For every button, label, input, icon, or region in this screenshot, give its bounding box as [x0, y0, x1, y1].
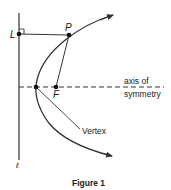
- point-p-dot: [67, 33, 72, 38]
- label-f: F: [53, 89, 60, 100]
- figure-caption: Figure 1: [72, 178, 105, 188]
- segment-lp: [19, 34, 69, 35]
- label-vertex: Vertex: [82, 126, 107, 136]
- point-l-dot: [17, 32, 22, 37]
- parabola-upper-arrow: [100, 15, 113, 20]
- label-directrix: ℓ: [15, 161, 19, 170]
- label-l: L: [10, 29, 16, 40]
- label-p: P: [65, 22, 72, 33]
- label-axis-line1: axis of: [124, 76, 149, 86]
- parabola-diagram: L P F ℓ axis of symmetry Vertex Figure 1: [0, 0, 171, 190]
- vertex-dot: [34, 85, 39, 90]
- parabola-figure-svg: L P F ℓ axis of symmetry Vertex Figure 1: [0, 0, 171, 190]
- label-axis-line2: symmetry: [124, 89, 162, 99]
